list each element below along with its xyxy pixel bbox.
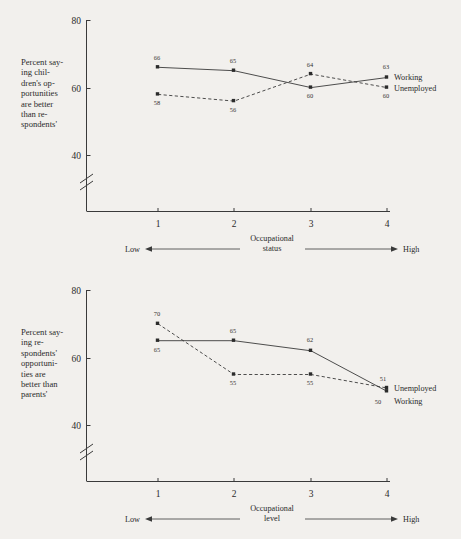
- data-point-working-4: [385, 389, 388, 392]
- x-tick-label-1: 1: [156, 219, 161, 229]
- arrow-left-icon: [145, 516, 240, 522]
- y-tick-label-60: 60: [72, 84, 82, 94]
- value-label-unemployed-1: 70: [154, 310, 160, 317]
- series-line-unemployed: [158, 74, 387, 101]
- x-axis-caption-line1: Occupational: [250, 234, 294, 243]
- x-tick-label-4: 4: [385, 489, 390, 499]
- chart-children-opportunities: Percent say- ing chil- dren's op- portun…: [0, 0, 461, 269]
- value-label-working-2: 65: [230, 57, 236, 64]
- data-point-working-1: [156, 339, 159, 342]
- value-label-working-3: 62: [307, 336, 313, 343]
- series-line-working: [158, 341, 387, 392]
- plot-area-top: 80 60 40 1 2 3 4 66 65 60 63 58 56 64 60: [0, 0, 461, 269]
- x-tick-label-4: 4: [385, 219, 390, 229]
- value-label-unemployed-3: 64: [307, 61, 314, 68]
- value-label-working-4: 50: [375, 398, 381, 405]
- y-tick-label-40: 40: [72, 421, 82, 431]
- data-point-unemployed-1: [156, 92, 159, 95]
- value-label-working-2: 65: [230, 327, 236, 334]
- data-point-unemployed-3: [309, 72, 312, 75]
- range-label-high: High: [403, 515, 419, 524]
- x-axis-caption-line1: Occupational: [250, 504, 294, 513]
- x-axis-caption-line2: level: [264, 514, 281, 523]
- legend-label-working: Working: [394, 73, 422, 82]
- arrow-right-icon: [305, 516, 398, 522]
- plot-area-bottom: 80 60 40 1 2 3 4 65 65 62 50 70 55 55 51: [0, 270, 461, 539]
- value-label-unemployed-3: 55: [307, 379, 313, 386]
- range-label-high: High: [403, 245, 419, 254]
- data-point-unemployed-4: [385, 85, 388, 88]
- x-tick-label-2: 2: [232, 219, 237, 229]
- x-axis-caption-line2: status: [263, 244, 282, 253]
- value-label-working-3: 60: [307, 92, 313, 99]
- value-label-working-4: 63: [383, 63, 389, 70]
- value-label-unemployed-2: 56: [230, 106, 236, 113]
- value-label-working-1: 65: [154, 346, 160, 353]
- series-line-working: [158, 67, 387, 87]
- data-point-working-2: [232, 69, 235, 72]
- value-label-working-1: 66: [154, 54, 160, 61]
- value-label-unemployed-4: 60: [383, 92, 389, 99]
- data-point-working-1: [156, 65, 159, 68]
- range-label-low: Low: [125, 245, 140, 254]
- y-tick-label-40: 40: [72, 151, 82, 161]
- x-tick-label-2: 2: [232, 489, 237, 499]
- data-point-unemployed-3: [309, 372, 312, 375]
- series-line-unemployed: [158, 324, 387, 388]
- value-label-unemployed-1: 58: [154, 99, 160, 106]
- chart-respondents-opportunities: Percent say- ing re- spondents' opportun…: [0, 270, 461, 539]
- data-point-working-2: [232, 339, 235, 342]
- x-tick-label-1: 1: [156, 489, 161, 499]
- data-point-unemployed-2: [232, 372, 235, 375]
- arrow-right-icon: [305, 246, 398, 252]
- data-point-working-3: [309, 349, 312, 352]
- y-tick-label-80: 80: [72, 286, 82, 296]
- range-label-low: Low: [125, 515, 140, 524]
- legend-label-working: Working: [394, 397, 422, 406]
- data-point-working-3: [309, 85, 312, 88]
- data-point-unemployed-1: [156, 322, 159, 325]
- x-tick-label-3: 3: [309, 219, 314, 229]
- value-label-unemployed-4: 51: [380, 375, 386, 382]
- y-tick-label-80: 80: [72, 16, 82, 26]
- data-point-unemployed-4: [385, 386, 388, 389]
- data-point-working-4: [385, 75, 388, 78]
- legend-label-unemployed: Unemployed: [394, 84, 436, 93]
- legend-label-unemployed: Unemployed: [394, 384, 436, 393]
- y-tick-label-60: 60: [72, 354, 82, 364]
- data-point-unemployed-2: [232, 99, 235, 102]
- x-tick-label-3: 3: [309, 489, 314, 499]
- arrow-left-icon: [145, 246, 240, 252]
- value-label-unemployed-2: 55: [230, 379, 236, 386]
